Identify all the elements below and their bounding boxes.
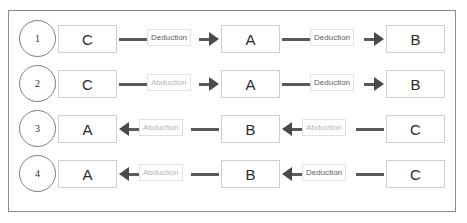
connector-line bbox=[199, 38, 209, 41]
term-label: A bbox=[245, 32, 255, 47]
term-label: C bbox=[82, 32, 93, 47]
connector-line bbox=[191, 173, 219, 176]
term-box: C bbox=[58, 70, 117, 98]
diagram-frame: 1 C Deduction A Deduction B bbox=[8, 10, 456, 212]
connector-label: Abduction bbox=[143, 169, 179, 177]
connector-label-box: Deduction bbox=[302, 164, 346, 181]
connector-line bbox=[292, 173, 302, 176]
connector-label-box: Deduction bbox=[310, 29, 354, 46]
term-box: A bbox=[221, 70, 280, 98]
inference-connector: Deduction bbox=[117, 25, 221, 53]
inference-connector: Abduction bbox=[117, 70, 221, 98]
term-label: B bbox=[410, 32, 420, 47]
arrow-right-icon bbox=[209, 77, 219, 91]
connector-label: Abduction bbox=[151, 79, 187, 87]
connector-line bbox=[364, 83, 374, 86]
arrow-left-icon bbox=[119, 122, 129, 136]
row-index-label: 2 bbox=[35, 79, 40, 89]
inference-connector: Abduction bbox=[117, 160, 221, 188]
connector-line bbox=[129, 128, 139, 131]
row-index-badge: 1 bbox=[19, 20, 56, 57]
arrow-right-icon bbox=[209, 32, 219, 46]
term-label: B bbox=[245, 167, 255, 182]
connector-label-box: Abduction bbox=[302, 119, 346, 136]
term-label: C bbox=[410, 167, 421, 182]
row-index-label: 1 bbox=[35, 34, 40, 44]
connector-label-box: Deduction bbox=[147, 29, 191, 46]
term-box: C bbox=[58, 25, 117, 53]
term-label: A bbox=[82, 167, 92, 182]
term-box: C bbox=[386, 115, 445, 143]
term-label: A bbox=[82, 122, 92, 137]
arrow-right-icon bbox=[374, 32, 384, 46]
connector-label: Deduction bbox=[314, 34, 350, 42]
term-box: B bbox=[386, 25, 445, 53]
term-label: A bbox=[245, 77, 255, 92]
connector-line bbox=[129, 173, 139, 176]
inference-chain-row: 2 C Abduction A Deduction B bbox=[9, 70, 455, 98]
term-box: C bbox=[386, 160, 445, 188]
term-box: A bbox=[58, 160, 117, 188]
connector-line bbox=[119, 38, 147, 41]
term-label: B bbox=[410, 77, 420, 92]
connector-label: Deduction bbox=[306, 169, 342, 177]
connector-label: Abduction bbox=[306, 124, 342, 132]
connector-label-box: Abduction bbox=[139, 119, 183, 136]
inference-chain-row: 1 C Deduction A Deduction B bbox=[9, 25, 455, 53]
connector-label-box: Abduction bbox=[139, 164, 183, 181]
connector-line bbox=[356, 173, 384, 176]
arrow-left-icon bbox=[119, 167, 129, 181]
arrow-left-icon bbox=[282, 167, 292, 181]
connector-line bbox=[364, 38, 374, 41]
connector-label: Deduction bbox=[151, 34, 187, 42]
connector-line bbox=[292, 128, 302, 131]
connector-label: Deduction bbox=[314, 79, 350, 87]
connector-label: Abduction bbox=[143, 124, 179, 132]
connector-line bbox=[282, 38, 310, 41]
term-box: A bbox=[221, 25, 280, 53]
term-box: B bbox=[221, 115, 280, 143]
term-box: B bbox=[221, 160, 280, 188]
row-index-badge: 2 bbox=[19, 65, 56, 102]
row-index-label: 3 bbox=[35, 124, 40, 134]
arrow-left-icon bbox=[282, 122, 292, 136]
inference-connector: Deduction bbox=[280, 160, 386, 188]
inference-connector: Deduction bbox=[280, 70, 386, 98]
inference-connector: Abduction bbox=[280, 115, 386, 143]
connector-label-box: Deduction bbox=[310, 74, 354, 91]
row-index-label: 4 bbox=[35, 169, 40, 179]
connector-label-box: Abduction bbox=[147, 74, 191, 91]
inference-chain-row: 3 A Abduction B Abduction C bbox=[9, 115, 455, 143]
connector-line bbox=[119, 83, 147, 86]
term-box: B bbox=[386, 70, 445, 98]
connector-line bbox=[356, 128, 384, 131]
term-label: B bbox=[245, 122, 255, 137]
connector-line bbox=[191, 128, 219, 131]
inference-connector: Abduction bbox=[117, 115, 221, 143]
inference-chain-row: 4 A Abduction B Deduction C bbox=[9, 160, 455, 188]
inference-connector: Deduction bbox=[280, 25, 386, 53]
connector-line bbox=[282, 83, 310, 86]
term-box: A bbox=[58, 115, 117, 143]
term-label: C bbox=[82, 77, 93, 92]
row-index-badge: 3 bbox=[19, 110, 56, 147]
term-label: C bbox=[410, 122, 421, 137]
connector-line bbox=[199, 83, 209, 86]
row-index-badge: 4 bbox=[19, 155, 56, 192]
arrow-right-icon bbox=[374, 77, 384, 91]
